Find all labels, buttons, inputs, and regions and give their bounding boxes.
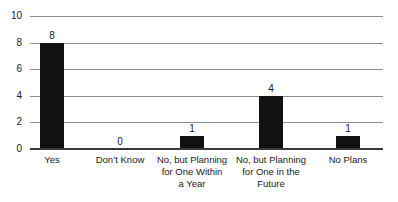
- y-tick-0: 0: [8, 144, 22, 154]
- bar-value-label: 8: [37, 31, 67, 41]
- y-tick-10: 10: [8, 11, 22, 21]
- gridline-4: [30, 96, 383, 97]
- bar: [259, 96, 283, 149]
- y-tick-2: 2: [8, 117, 22, 127]
- y-tick-4: 4: [8, 91, 22, 101]
- gridline-8: [30, 43, 383, 44]
- y-tick-8: 8: [8, 38, 22, 48]
- bar: [40, 43, 64, 149]
- category-label: No Plans: [306, 154, 390, 166]
- bar-value-label: 4: [256, 84, 286, 94]
- bar-value-label: 0: [105, 137, 135, 147]
- bar-chart: 0 2 4 6 8 10 80141 YesDon’t KnowNo, but …: [0, 0, 398, 202]
- category-label: No, but Planningfor One Withina Year: [150, 154, 234, 190]
- y-tick-6: 6: [8, 64, 22, 74]
- bar-value-label: 1: [333, 124, 363, 134]
- gridline-6: [30, 69, 383, 70]
- bar-value-label: 1: [177, 124, 207, 134]
- category-label: No, but Planningfor One in theFuture: [229, 154, 313, 190]
- x-axis-line: [30, 148, 383, 150]
- gridline-2: [30, 122, 383, 123]
- gridline-10: [30, 16, 383, 17]
